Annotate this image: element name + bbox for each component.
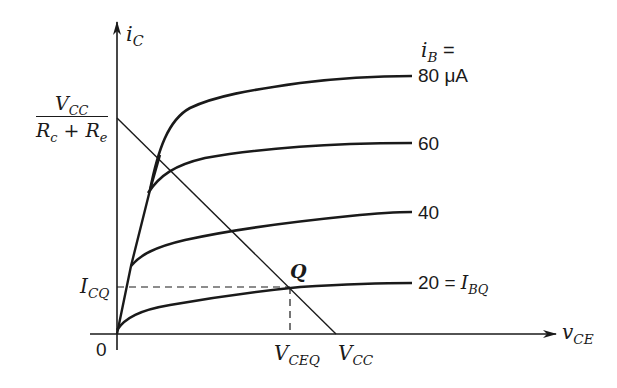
plot-canvas [0,0,617,388]
load-line [117,118,336,334]
curve-80uA [150,76,412,190]
curve-label-20: 20 = IBQ [418,273,488,292]
transistor-characteristics-diagram: iC vCE iB = 80 μA 60 40 20 = IBQ VCC Rc … [0,0,617,388]
curve-label-60: 60 [418,134,439,153]
x-axis-label: vCE [562,322,594,342]
y-axis-label: iC [126,24,144,45]
icq-label: ICQ [80,276,109,296]
vceq-label: VCEQ [274,343,320,363]
origin-label: 0 [96,340,107,359]
vcc-label: VCC [338,343,373,363]
curve-60uA [148,143,412,193]
curve-label-80: 80 μA [418,66,468,85]
curve-label-40: 40 [418,203,439,222]
load-line-intercept-fraction: VCC Rc + Re [36,92,108,141]
legend-title: iB = [421,40,455,60]
curve-20uA [117,283,412,330]
curve-40uA [131,212,412,266]
q-point-label: Q [290,262,307,281]
